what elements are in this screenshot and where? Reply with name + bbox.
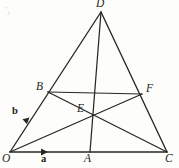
vector-label-b: b xyxy=(12,106,18,117)
segment-DC xyxy=(101,12,167,152)
point-label-A: A xyxy=(84,153,91,165)
point-label-O: O xyxy=(2,153,10,165)
segment-DA xyxy=(90,12,101,152)
segment-CB xyxy=(48,92,167,152)
segment-OF xyxy=(10,94,142,152)
vector-label-a: a xyxy=(41,154,46,165)
point-label-F: F xyxy=(146,83,153,95)
segment-OD xyxy=(10,12,101,152)
point-label-C: C xyxy=(165,153,173,165)
point-label-B: B xyxy=(36,81,43,93)
point-label-E: E xyxy=(77,103,84,115)
point-label-D: D xyxy=(96,0,104,10)
geometry-figure: '₁ O A C D B F E a b xyxy=(0,0,179,168)
